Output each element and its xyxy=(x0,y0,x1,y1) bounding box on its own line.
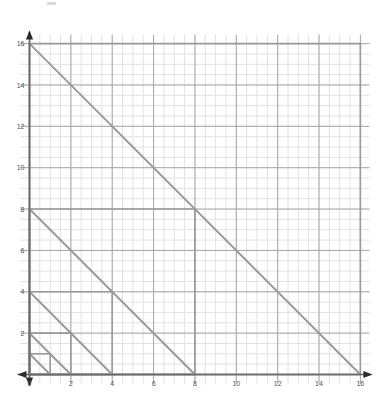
x-axis-arrow-left xyxy=(18,371,27,378)
x-axis-arrow-right xyxy=(363,371,372,378)
x-tick-label: 4 xyxy=(110,380,114,387)
y-tick-label: 10 xyxy=(17,164,25,171)
chart-canvas: 0246810121416246810121416 xyxy=(0,0,391,398)
y-tick-label: 12 xyxy=(17,123,25,130)
x-tick-label: 12 xyxy=(274,380,282,387)
y-tick-label: 6 xyxy=(21,247,25,254)
x-tick-label: 2 xyxy=(69,380,73,387)
x-tick-label: 14 xyxy=(315,380,323,387)
x-tick-label: 0 xyxy=(28,380,32,387)
y-tick-label: 16 xyxy=(17,40,25,47)
y-tick-label: 8 xyxy=(21,206,25,213)
x-tick-label: 6 xyxy=(152,380,156,387)
x-tick-label: 10 xyxy=(232,380,240,387)
triangle-grid-plot: 0246810121416246810121416 xyxy=(0,0,391,398)
y-tick-label: 14 xyxy=(17,82,25,89)
y-tick-label: 4 xyxy=(21,288,25,295)
y-tick-label: 2 xyxy=(21,330,25,337)
x-tick-label: 8 xyxy=(193,380,197,387)
tick-labels: 0246810121416246810121416 xyxy=(17,40,365,386)
y-axis-arrow-up xyxy=(26,31,33,40)
x-tick-label: 16 xyxy=(356,380,364,387)
